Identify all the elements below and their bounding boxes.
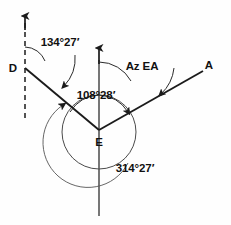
arc-back-azimuth-sweep: [43, 105, 128, 187]
label-point-d: D: [9, 62, 17, 74]
label-azimuth-ed: 134°27′: [41, 36, 80, 48]
label-back-azimuth: 314°27′: [116, 162, 155, 174]
arc-azimuth-ed-pointer: [64, 55, 75, 86]
arc-back-azimuth: [43, 105, 128, 187]
label-azimuth-ea: Az EA: [126, 60, 159, 72]
survey-angle-diagram: 134°27′ Az EA 108°28′ 314°27′ D A E: [0, 0, 231, 225]
label-interior-angle: 108°28′: [77, 89, 116, 101]
diagram-canvas: 134°27′ Az EA 108°28′ 314°27′ D A E: [0, 0, 231, 225]
label-point-e: E: [95, 136, 103, 148]
label-point-a: A: [205, 59, 213, 71]
arc-azimuth-ed-upper: [25, 47, 45, 61]
arc-azimuth-ed: [25, 47, 75, 86]
